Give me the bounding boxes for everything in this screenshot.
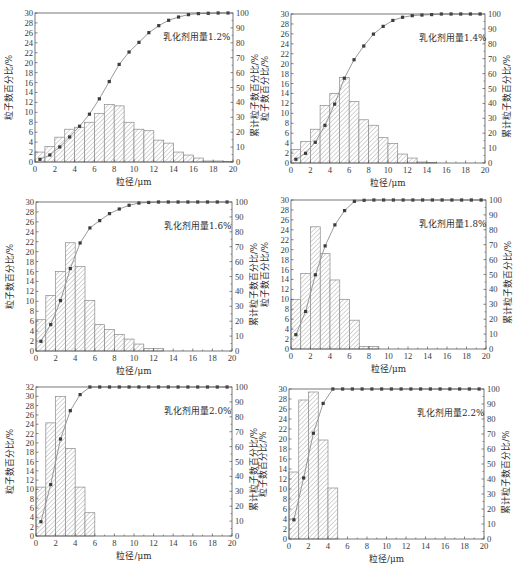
y-right-tick-label: 30 bbox=[236, 112, 245, 122]
x-axis-title: 粒径/μm bbox=[369, 553, 405, 564]
cumulative-marker bbox=[147, 201, 150, 204]
cumulative-marker bbox=[411, 14, 414, 17]
histogram-bars bbox=[36, 396, 95, 536]
y-right-tick-label: 60 bbox=[236, 68, 245, 78]
x-tick-label: 0 bbox=[287, 541, 291, 551]
y-right-tick-label: 70 bbox=[489, 240, 498, 250]
x-tick-label: 4 bbox=[328, 165, 333, 175]
y-tick-label: 26 bbox=[278, 404, 287, 414]
particle-size-distribution-figure: 0246810121416182022242628300102030405060… bbox=[0, 0, 519, 566]
histogram-bar bbox=[85, 122, 95, 162]
x-tick-label: 10 bbox=[384, 351, 393, 361]
cumulative-marker bbox=[167, 19, 170, 22]
x-tick-label: 10 bbox=[130, 164, 139, 174]
y-tick-label: 8 bbox=[283, 494, 287, 504]
y-right-tick-label: 50 bbox=[489, 270, 498, 280]
x-tick-label: 18 bbox=[462, 351, 471, 361]
x-axis-title: 粒径/μm bbox=[371, 363, 407, 374]
y-tick-label: 22 bbox=[25, 237, 34, 247]
x-tick-label: 4 bbox=[72, 164, 77, 174]
y-tick-label: 26 bbox=[280, 215, 289, 225]
cumulative-marker bbox=[49, 483, 52, 486]
cumulative-marker bbox=[58, 145, 61, 148]
histogram-bar bbox=[328, 488, 338, 539]
y-tick-label: 2 bbox=[283, 524, 287, 534]
y-tick-label: 6 bbox=[30, 503, 35, 513]
emulsifier-dosage-annotation: 乳化剂用量1.2% bbox=[163, 31, 230, 42]
histogram-bar bbox=[349, 101, 359, 163]
y-right-axis-title: 累计粒子数百分比/% bbox=[249, 54, 260, 137]
cumulative-marker bbox=[322, 402, 325, 405]
y-tick-label: 24 bbox=[24, 38, 33, 48]
y-tick-label: 8 bbox=[30, 306, 34, 316]
x-tick-label: 18 bbox=[209, 164, 218, 174]
cumulative-marker bbox=[127, 50, 130, 53]
histogram-bar bbox=[369, 125, 379, 163]
cumulative-marker bbox=[59, 437, 62, 440]
cumulative-marker bbox=[98, 97, 101, 100]
y-axis-title: 粒子数百分比/% bbox=[257, 431, 268, 496]
y-right-tick-label: 10 bbox=[488, 143, 497, 153]
emulsifier-dosage-annotation: 乳化剂用量1.6% bbox=[164, 220, 231, 231]
y-tick-label: 10 bbox=[280, 294, 289, 304]
y-right-tick-label: 50 bbox=[487, 459, 496, 469]
y-tick-label: 28 bbox=[280, 19, 289, 29]
x-tick-label: 16 bbox=[189, 353, 198, 363]
cumulative-marker bbox=[343, 209, 346, 212]
y-tick-label: 30 bbox=[278, 384, 287, 394]
histogram-bar bbox=[85, 300, 95, 351]
x-tick-label: 0 bbox=[34, 353, 38, 363]
cumulative-marker bbox=[49, 323, 52, 326]
y-right-axis-title: 累计粒子数百分比/% bbox=[501, 55, 512, 138]
chart-panel: 0246810121416182022242628300102030405060… bbox=[3, 8, 260, 187]
x-tick-label: 18 bbox=[460, 541, 469, 551]
y-tick-label: 16 bbox=[280, 79, 289, 89]
histogram-bar bbox=[174, 152, 184, 162]
y-tick-label: 14 bbox=[280, 274, 289, 284]
y-right-tick-label: 90 bbox=[236, 23, 245, 33]
y-tick-label: 28 bbox=[280, 205, 289, 215]
cumulative-marker bbox=[304, 152, 307, 155]
x-tick-label: 8 bbox=[112, 353, 116, 363]
y-tick-label: 20 bbox=[280, 59, 289, 69]
cumulative-marker bbox=[69, 409, 72, 412]
histogram-bar bbox=[36, 487, 46, 536]
y-tick-label: 2 bbox=[285, 148, 289, 158]
y-right-tick-label: 30 bbox=[235, 486, 244, 496]
x-tick-label: 18 bbox=[461, 165, 470, 175]
y-tick-label: 14 bbox=[24, 87, 33, 97]
y-tick-label: 28 bbox=[25, 401, 34, 411]
x-tick-label: 6 bbox=[347, 165, 352, 175]
cumulative-marker bbox=[39, 520, 42, 523]
y-tick-label: 20 bbox=[278, 434, 287, 444]
histogram-bar bbox=[46, 423, 56, 536]
x-tick-label: 12 bbox=[150, 164, 159, 174]
cumulative-marker bbox=[382, 25, 385, 28]
y-right-tick-label: 10 bbox=[235, 331, 244, 341]
y-right-tick-label: 80 bbox=[235, 227, 244, 237]
y-tick-label: 28 bbox=[25, 207, 34, 217]
y-tick-label: 20 bbox=[24, 58, 33, 68]
x-tick-label: 2 bbox=[53, 353, 57, 363]
cumulative-marker bbox=[391, 19, 394, 22]
histogram-bar bbox=[154, 140, 164, 162]
x-axis-title: 粒径/μm bbox=[116, 176, 152, 187]
x-tick-label: 10 bbox=[130, 538, 139, 548]
y-right-tick-label: 100 bbox=[235, 382, 248, 392]
y-tick-label: 8 bbox=[30, 494, 34, 504]
cumulative-marker bbox=[78, 125, 81, 128]
x-tick-label: 4 bbox=[73, 353, 78, 363]
x-tick-label: 12 bbox=[403, 165, 412, 175]
x-tick-label: 16 bbox=[189, 538, 198, 548]
y-right-tick-label: 30 bbox=[487, 489, 496, 499]
y-tick-label: 8 bbox=[285, 118, 289, 128]
y-tick-label: 6 bbox=[283, 504, 288, 514]
y-tick-label: 16 bbox=[25, 457, 34, 467]
histogram-bar bbox=[56, 272, 66, 351]
x-tick-label: 20 bbox=[228, 538, 237, 548]
y-right-tick-label: 40 bbox=[489, 284, 498, 294]
y-right-tick-label: 60 bbox=[487, 444, 496, 454]
x-tick-label: 14 bbox=[169, 164, 178, 174]
histogram-bar bbox=[75, 487, 85, 536]
y-right-tick-label: 90 bbox=[488, 24, 497, 34]
